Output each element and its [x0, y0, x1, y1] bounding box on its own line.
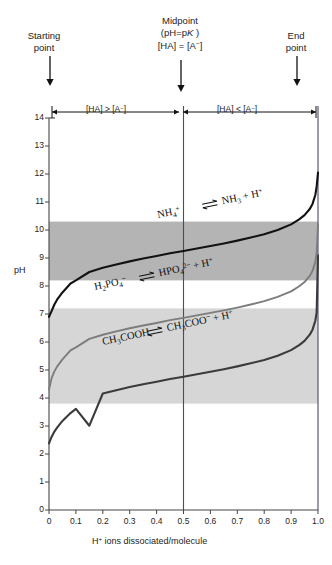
x-tick-label: 0.7 — [223, 516, 251, 526]
reactant-label: NH4+ — [156, 204, 182, 223]
x-tick-label: 0.6 — [196, 516, 224, 526]
bracket-left-head-left — [52, 109, 57, 114]
y-tick-label: 3 — [20, 420, 44, 430]
equilibrium-arrow-bottom — [203, 205, 218, 208]
equilibrium-arrow-top — [202, 201, 217, 204]
x-tick-label: 0.8 — [250, 516, 278, 526]
y-tick-label: 14 — [20, 112, 44, 122]
y-tick-label: 9 — [20, 252, 44, 262]
bracket-right-head-right — [311, 109, 316, 114]
y-tick-label: 11 — [20, 196, 44, 206]
y-tick-label: 12 — [20, 168, 44, 178]
y-tick-label: 2 — [20, 448, 44, 458]
x-tick-label: 0.2 — [89, 516, 117, 526]
y-tick-label: 13 — [20, 140, 44, 150]
x-tick-label: 1.0 — [304, 516, 332, 526]
x-tick-label: 0.9 — [277, 516, 305, 526]
x-tick-label: 0.5 — [170, 516, 198, 526]
product-label: NH3 + H+ — [220, 185, 264, 208]
y-tick-label: 7 — [20, 308, 44, 318]
end-point-arrow-head — [293, 79, 300, 86]
x-tick-label: 0.4 — [143, 516, 171, 526]
equation-label-NH4+: NH4+NH3 + H+ — [156, 185, 265, 222]
bracket-left-head-right — [174, 109, 179, 114]
y-tick-label: 8 — [20, 280, 44, 290]
y-tick-label: 10 — [20, 224, 44, 234]
x-tick-label: 0.1 — [62, 516, 90, 526]
x-tick-label: 0.3 — [116, 516, 144, 526]
y-tick-label: 1 — [20, 476, 44, 486]
starting-point-arrow-head — [46, 79, 53, 86]
midpoint-arrow-head — [177, 85, 184, 92]
y-tick-label: 0 — [20, 504, 44, 514]
y-tick-label: 6 — [20, 336, 44, 346]
y-tick-label: 5 — [20, 364, 44, 374]
titration-chart: NH4+NH3 + H+H2PO4−HPO42− + H+CH3COOHCH3C… — [0, 0, 332, 565]
y-tick-label: 4 — [20, 392, 44, 402]
x-tick-label: 0 — [35, 516, 63, 526]
